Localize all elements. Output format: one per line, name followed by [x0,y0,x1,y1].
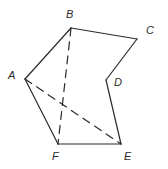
vertex-label-f: F [52,150,60,162]
vertex-label-b: B [66,8,73,20]
edge-cd [106,39,137,80]
edge-ae-dashed [25,79,121,144]
edge-de [106,80,121,144]
vertex-label-c: C [146,24,154,36]
edge-fa [25,79,58,144]
edge-bc [71,28,137,39]
vertex-label-e: E [124,150,132,162]
vertex-label-a: A [7,69,15,81]
polygon-diagram: ABCDEF [0,0,168,169]
edge-ab [25,28,71,79]
edge-bf-dashed [58,28,71,144]
labels-group: ABCDEF [7,8,154,162]
vertex-label-d: D [114,76,122,88]
